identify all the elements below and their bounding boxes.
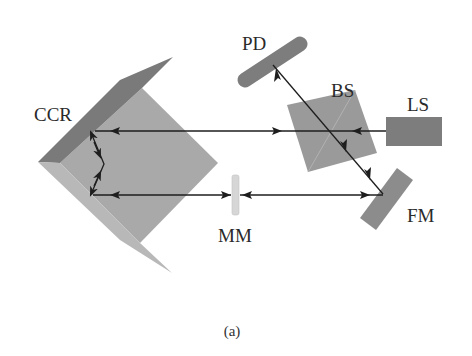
optical-setup-diagram: CCR PD BS LS MM FM (a): [0, 0, 472, 356]
ccr-corner-cube-reflector: [38, 57, 218, 273]
ls-laser-source: [386, 117, 442, 146]
label-fm: FM: [407, 205, 435, 226]
label-mm: MM: [218, 225, 252, 246]
mm-movable-mirror: [232, 175, 239, 215]
label-bs: BS: [331, 80, 354, 101]
label-ccr: CCR: [34, 104, 72, 125]
label-pd: PD: [242, 33, 266, 54]
ccr-face: [60, 88, 218, 243]
figure-caption: (a): [224, 323, 241, 340]
label-ls: LS: [407, 94, 429, 115]
